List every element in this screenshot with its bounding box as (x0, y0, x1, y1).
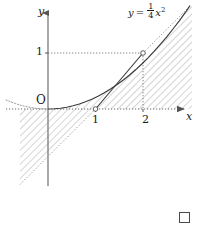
origin-label: O (36, 94, 46, 106)
equation-fraction: 14 (147, 2, 154, 20)
fraction-denominator: 4 (147, 10, 154, 19)
math-figure: y x O 1 1 2 y=14x2 (0, 0, 198, 231)
tick-label-y-1: 1 (36, 46, 43, 57)
tick-label-x-1: 1 (92, 114, 99, 125)
qed-square-marker (179, 212, 190, 223)
plot-canvas (0, 0, 198, 231)
hatched-region-under-parabola (48, 2, 192, 109)
marked-point-1-0 (93, 107, 98, 112)
fraction-numerator: 1 (147, 2, 154, 10)
curve-equation-label: y=14x2 (128, 2, 165, 20)
equation-exponent: 2 (161, 6, 165, 14)
equation-lhs: y (128, 7, 134, 18)
marked-point-2-1 (141, 51, 146, 56)
axis-label-y: y (38, 6, 44, 17)
tick-label-x-2: 2 (142, 114, 149, 125)
equation-equals: = (136, 7, 144, 18)
axis-label-x: x (186, 111, 192, 122)
